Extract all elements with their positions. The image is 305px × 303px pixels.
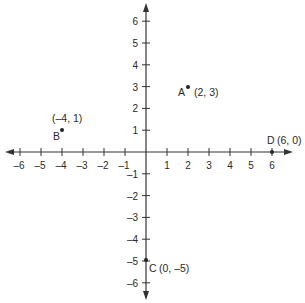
point-b-name: B bbox=[53, 130, 60, 142]
x-tick-label: 4 bbox=[227, 160, 233, 171]
x-tick-label: –3 bbox=[76, 160, 88, 171]
y-tick-label: 2 bbox=[132, 103, 138, 114]
x-tick-label: –6 bbox=[13, 160, 25, 171]
y-tick-label: –5 bbox=[127, 256, 139, 267]
coordinate-plane: –6–5–4–3–2–1123456 654321–1–2–3–4–5–6 A … bbox=[0, 0, 305, 303]
x-axis: –6–5–4–3–2–1123456 bbox=[5, 148, 293, 171]
point-a-coords: (2, 3) bbox=[194, 86, 219, 98]
y-tick-label: 5 bbox=[132, 38, 138, 49]
y-tick-label: 4 bbox=[132, 60, 138, 71]
point-b-coords: (–4, 1) bbox=[52, 112, 82, 124]
x-tick-label: 2 bbox=[185, 160, 191, 171]
y-tick-label: –4 bbox=[127, 234, 139, 245]
point-a-name: A bbox=[178, 86, 185, 98]
x-axis-left-arrow-icon bbox=[5, 149, 14, 155]
point-d-coords: (6, 0) bbox=[277, 134, 302, 146]
x-tick-label: 3 bbox=[206, 160, 212, 171]
x-tick-label: –2 bbox=[97, 160, 109, 171]
y-axis-down-arrow-icon bbox=[143, 291, 149, 300]
x-tick-label: –4 bbox=[55, 160, 67, 171]
point-a: A (2, 3) bbox=[178, 85, 219, 98]
point-c: C (0, –5) bbox=[144, 258, 189, 274]
y-tick-label: –6 bbox=[127, 278, 139, 289]
point-d-name: D bbox=[267, 134, 275, 146]
x-tick-label: 5 bbox=[248, 160, 254, 171]
x-tick-label: 1 bbox=[164, 160, 170, 171]
x-axis-right-arrow-icon bbox=[284, 149, 293, 155]
y-tick-label: –3 bbox=[127, 212, 139, 223]
x-tick-label: 6 bbox=[269, 160, 275, 171]
y-tick-label: 1 bbox=[132, 125, 138, 136]
point-b: B (–4, 1) bbox=[52, 112, 82, 142]
y-tick-label: –1 bbox=[127, 169, 139, 180]
point-c-coords: (0, –5) bbox=[159, 262, 189, 274]
y-tick-label: –2 bbox=[127, 191, 139, 202]
x-tick-label: –5 bbox=[34, 160, 46, 171]
y-tick-label: 6 bbox=[132, 16, 138, 27]
point-c-name: C bbox=[149, 262, 157, 274]
y-axis-up-arrow-icon bbox=[143, 3, 149, 12]
y-tick-label: 3 bbox=[132, 82, 138, 93]
